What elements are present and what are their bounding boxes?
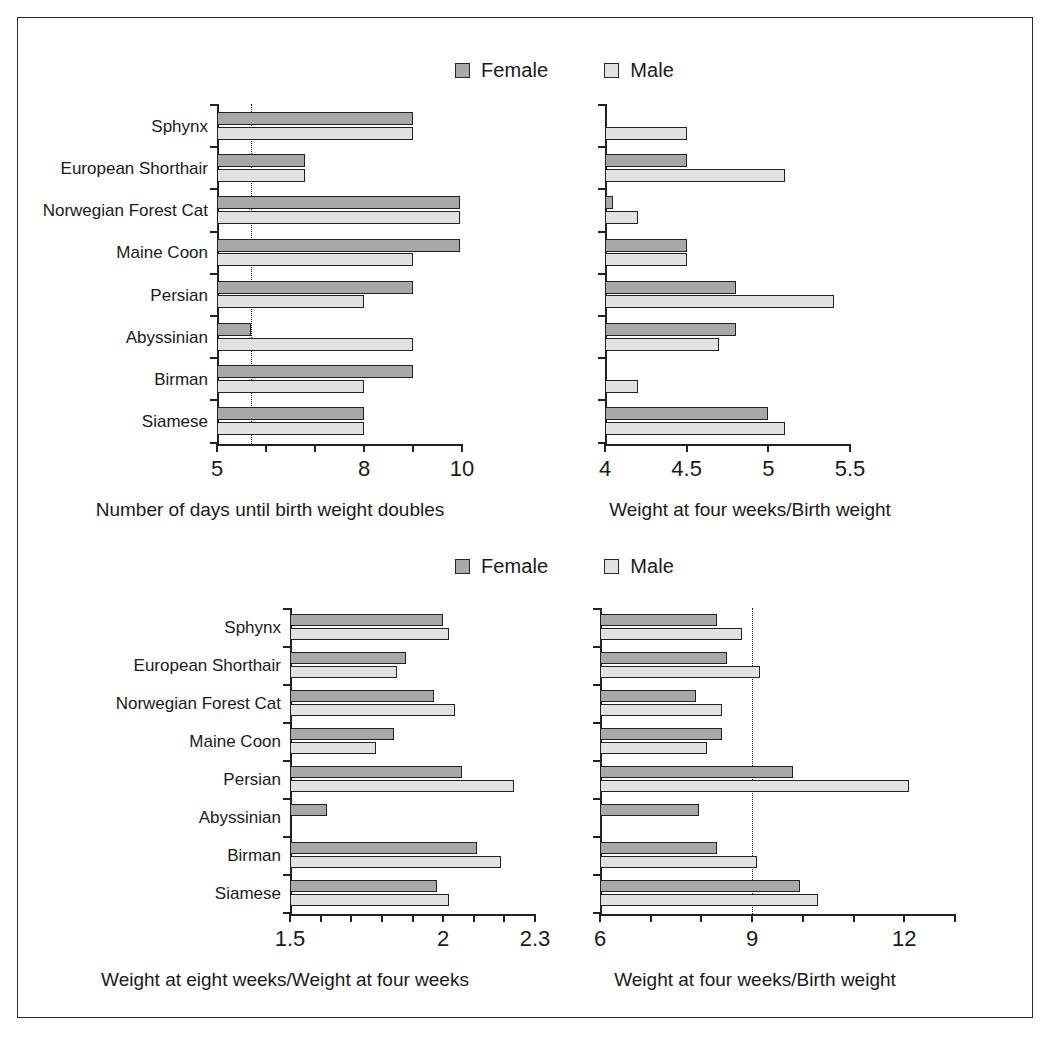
bar-male [605,295,834,308]
x-axis-tick-label: 2 [437,928,449,950]
bar-male [217,422,364,435]
bar-female [600,690,696,702]
bar-male [217,127,413,140]
axis-title-x: Weight at four weeks/Birth weight [540,500,960,519]
bar-male [600,894,818,906]
bar-female [605,323,736,336]
y-axis-tick [283,722,290,724]
y-axis-tick [593,874,600,876]
y-axis-tick [598,357,605,359]
bar-female [600,880,800,892]
axis-title-x: Weight at four weeks/Birth weight [545,970,965,989]
bar-female [605,281,736,294]
y-axis-tick [598,231,605,233]
y-axis-tick [210,357,217,359]
x-axis-tick [289,914,291,922]
y-axis-tick [593,836,600,838]
bar-female [217,365,413,378]
y-axis-tick [593,608,600,610]
y-axis-tick [283,912,290,914]
bar-male [600,742,707,754]
x-axis-tick-label: 4.5 [671,458,702,480]
bar-male [217,338,413,351]
y-axis-tick [598,146,605,148]
x-axis-tick [767,444,769,452]
bar-male [217,211,460,224]
x-axis-line [600,914,955,916]
x-axis-tick [599,914,601,922]
bar-male [217,169,305,182]
bar-female [600,804,699,816]
x-axis-tick-label: 2.3 [520,928,551,950]
x-axis-tick-label: 5.5 [835,458,866,480]
bar-female [605,407,768,420]
bar-male [217,380,364,393]
y-axis-tick [210,104,217,106]
bar-male [605,169,785,182]
bar-female [600,842,717,854]
plot-area: 5810SphynxEuropean ShorthairNorwegian Fo… [217,104,462,444]
category-label: Sphynx [151,117,208,134]
y-axis-tick [593,722,600,724]
plot-area: 1.522.3SphynxEuropean ShorthairNorwegian… [290,608,535,914]
x-axis-tick [700,914,702,922]
y-axis-tick [598,273,605,275]
x-axis-tick [604,444,606,452]
axis-title-x: Number of days until birth weight double… [60,500,480,519]
bar-female [605,239,687,252]
y-axis-category-labels: SphynxEuropean ShorthairNorwegian Forest… [70,608,290,914]
y-axis-tick [593,798,600,800]
bar-female [217,281,413,294]
x-axis-tick [381,914,383,922]
y-axis-tick [210,146,217,148]
bar-female [290,766,462,778]
x-axis-tick [412,914,414,922]
legend-label-female: Female [481,60,548,80]
y-axis-tick [593,646,600,648]
legend-entry-female: Female [455,556,548,576]
bar-male [290,628,449,640]
axis-title-x: Weight at eight weeks/Weight at four wee… [50,970,520,989]
y-axis-tick [210,399,217,401]
category-label: Sphynx [224,618,281,635]
legend-swatch-female-icon [455,559,470,574]
x-axis-tick [314,444,316,452]
bar-female [605,196,613,209]
bar-female [217,239,460,252]
legend-bottom: Female Male [455,556,674,576]
bar-female [290,842,477,854]
bar-male [605,338,719,351]
bar-male [600,856,757,868]
bar-male [605,422,785,435]
bar-female [217,407,364,420]
x-axis-tick [265,444,267,452]
category-label: European Shorthair [134,656,281,673]
category-label: Siamese [142,413,208,430]
y-axis-tick [283,646,290,648]
x-axis-tick-label: 1.5 [275,928,306,950]
category-label: Maine Coon [116,244,208,261]
category-label: Siamese [215,884,281,901]
y-axis-tick [283,760,290,762]
bar-male [217,253,413,266]
bar-male [605,127,687,140]
bar-male [605,380,638,393]
legend-entry-female: Female [455,60,548,80]
legend-label-male: Male [630,60,674,80]
category-label: Maine Coon [189,732,281,749]
bar-female [600,614,717,626]
x-axis-tick [903,914,905,922]
chart-panel-four-week-over-birth-weight-bottom: 6912 [600,608,955,914]
x-axis-tick [853,914,855,922]
y-axis-tick [598,442,605,444]
bar-male [600,780,909,792]
x-axis-tick [751,914,753,922]
legend-entry-male: Male [604,556,674,576]
legend-label-male: Male [630,556,674,576]
x-axis-tick-label: 10 [450,458,474,480]
x-axis-tick [320,914,322,922]
category-label: Norwegian Forest Cat [43,202,208,219]
bar-female [600,766,793,778]
y-axis-tick [210,273,217,275]
x-axis-tick-label: 9 [746,928,758,950]
